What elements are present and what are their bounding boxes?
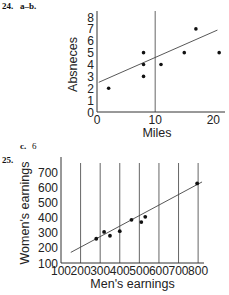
y-tick-label: 700 (38, 166, 58, 180)
x-axis-label: Men's earnings (90, 277, 174, 291)
data-point (143, 215, 147, 219)
data-point (108, 234, 112, 238)
data-point (94, 237, 98, 241)
data-point (118, 229, 122, 233)
data-point (102, 230, 106, 234)
x-tick-label: 300 (90, 264, 110, 278)
x-tick-label: 700 (169, 264, 189, 278)
y-tick-label: 600 (38, 181, 58, 195)
y-tick-label: 500 (38, 196, 58, 210)
x-tick-label: 600 (149, 264, 169, 278)
trend-line (71, 182, 202, 252)
chart-women-vs-men-earnings: 1002003004005006007001002003004005006007… (0, 0, 229, 295)
y-tick-label: 400 (38, 211, 58, 225)
x-tick-label: 800 (188, 264, 208, 278)
data-point (195, 182, 199, 186)
data-point (130, 218, 134, 222)
x-tick-label: 400 (110, 264, 130, 278)
y-tick-label: 200 (38, 241, 58, 255)
x-tick-label: 500 (129, 264, 149, 278)
x-tick-label: 200 (71, 264, 91, 278)
x-tick-label: 100 (51, 264, 71, 278)
y-axis-label: Women's earnings (18, 162, 32, 265)
data-point (139, 220, 143, 224)
y-tick-label: 300 (38, 226, 58, 240)
